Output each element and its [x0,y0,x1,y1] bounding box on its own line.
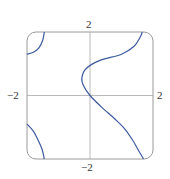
tick-label-top: 2 [86,19,92,30]
bottom-left-curve [27,124,44,159]
tick-label-left: −2 [7,90,19,101]
contour-plot [0,0,170,179]
tick-label-bottom: −2 [81,162,93,173]
tick-label-right: 2 [157,90,163,101]
